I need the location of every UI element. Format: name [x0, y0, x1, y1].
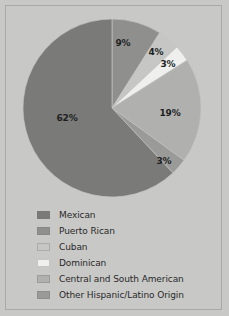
legend-color-swatch	[37, 243, 50, 251]
pie-slice-value-label: 62%	[57, 113, 78, 123]
legend-color-swatch	[37, 275, 50, 283]
legend-item-label: Puerto Rican	[59, 226, 115, 236]
pie-chart-plot-area: 9%4%3%19%3%62%	[0, 0, 229, 205]
legend-item-label: Dominican	[59, 258, 106, 268]
legend-color-swatch	[37, 291, 50, 299]
pie-chart-svg	[0, 0, 229, 205]
pie-slice-value-label: 3%	[161, 59, 176, 69]
legend-item-label: Cuban	[59, 242, 87, 252]
legend-item: Mexican	[37, 207, 217, 223]
legend-item: Cuban	[37, 239, 217, 255]
legend-item-label: Central and South American	[59, 274, 184, 284]
legend-item-label: Mexican	[59, 210, 95, 220]
pie-slice-value-label: 9%	[116, 38, 131, 48]
legend-item: Other Hispanic/Latino Origin	[37, 287, 217, 303]
legend-item-label: Other Hispanic/Latino Origin	[59, 290, 184, 300]
legend-item: Central and South American	[37, 271, 217, 287]
legend-item: Puerto Rican	[37, 223, 217, 239]
chart-legend: MexicanPuerto RicanCubanDominicanCentral…	[37, 207, 217, 303]
pie-slice-value-label: 4%	[149, 47, 164, 57]
legend-color-swatch	[37, 259, 50, 267]
legend-item: Dominican	[37, 255, 217, 271]
pie-chart-figure: 9%4%3%19%3%62% MexicanPuerto RicanCubanD…	[0, 0, 229, 316]
legend-color-swatch	[37, 227, 50, 235]
pie-slice-value-label: 3%	[157, 156, 172, 166]
legend-color-swatch	[37, 211, 50, 219]
pie-slice-value-label: 19%	[160, 108, 181, 118]
